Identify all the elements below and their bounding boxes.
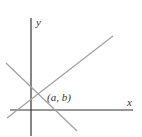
intersection-point-label: (a, b) — [47, 91, 71, 104]
x-axis-label: x — [126, 96, 132, 108]
rising-line — [7, 36, 113, 118]
coordinate-diagram: y x (a, b) — [0, 0, 142, 137]
y-axis-label: y — [35, 16, 41, 28]
